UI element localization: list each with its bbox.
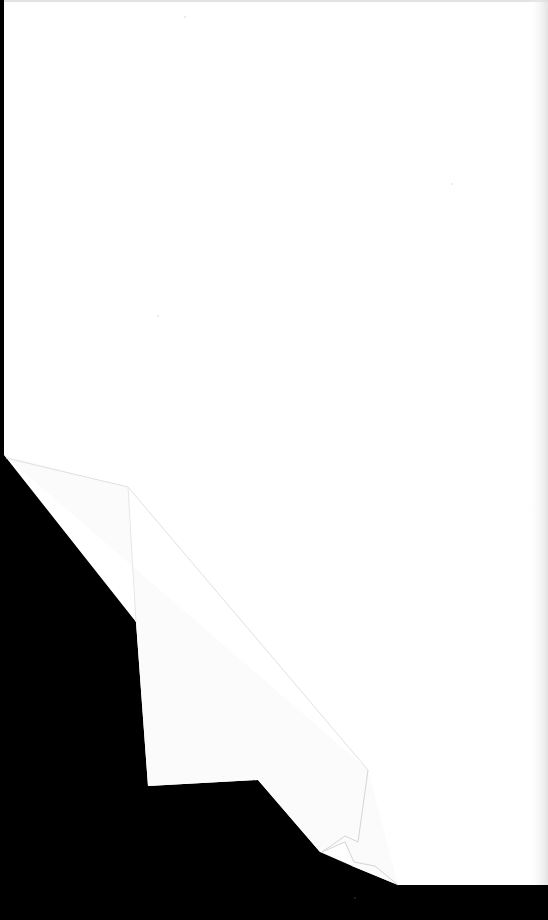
scan-speck [157, 315, 159, 317]
scan-speck [184, 16, 186, 18]
scanned-page-canvas: blank-scanned-page [0, 0, 548, 920]
scan-speck [354, 897, 356, 899]
right-edge-shadow [528, 0, 548, 885]
left-scanner-border [0, 0, 4, 460]
page-illustration [0, 0, 548, 920]
top-edge-shadow [4, 0, 548, 2]
scan-speck [451, 183, 453, 185]
